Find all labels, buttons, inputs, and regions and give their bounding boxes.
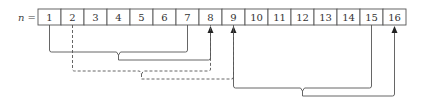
cell-number: 11	[273, 12, 286, 23]
cell-number: 15	[365, 12, 378, 23]
cell-number: 4	[115, 12, 121, 23]
cell-number: 12	[296, 12, 309, 23]
link-group-1-to-7-to-8	[119, 31, 211, 60]
cell-number: 6	[161, 12, 167, 23]
cell-number: 16	[388, 12, 401, 23]
cell-number: 13	[319, 12, 332, 23]
brace-group-1-to-7-to-8	[50, 25, 188, 55]
cell-number: 8	[207, 12, 213, 23]
cell-number: 3	[92, 12, 98, 23]
brace-group-9-to-15-to-16	[234, 25, 372, 91]
connectors	[50, 25, 398, 96]
link-group-9-to-15-to-16	[303, 31, 395, 96]
diagram-canvas: n = 12345678910111213141516	[0, 0, 423, 102]
brace-group-2-to-8-to-9	[73, 25, 211, 74]
cell-number: 7	[184, 12, 190, 23]
cell-row: 12345678910111213141516	[38, 9, 406, 25]
n-label: n =	[18, 12, 36, 23]
cell-number: 14	[342, 12, 355, 23]
cell-number: 9	[230, 12, 236, 23]
cell-number: 1	[46, 12, 52, 23]
cell-number: 5	[138, 12, 144, 23]
cell-number: 10	[250, 12, 263, 23]
cell-number: 2	[69, 12, 75, 23]
arrow-up-icon	[392, 26, 398, 33]
